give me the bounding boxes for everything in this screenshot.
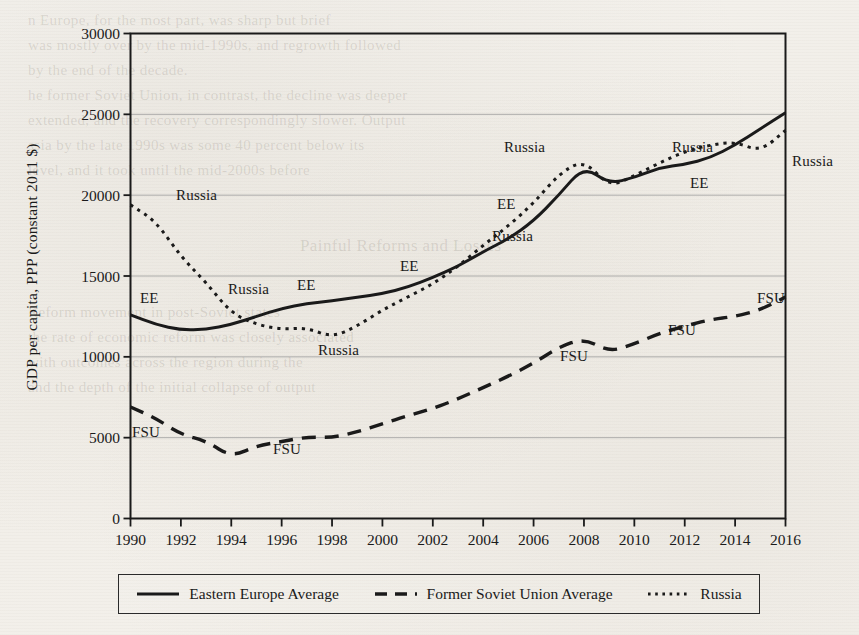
legend-label-eastern-europe: Eastern Europe Average [189,585,338,603]
chart-legend: Eastern Europe Average Former Soviet Uni… [118,574,760,614]
inline-label-russia-11: Russia [792,153,833,170]
inline-label-russia-2: Russia [228,281,269,298]
x-tick-2012: 2012 [658,531,712,549]
series-line-russia [131,131,786,335]
x-tick-2016: 2016 [759,531,813,549]
series-line-fsu [131,297,786,454]
inline-label-ee-10: EE [690,175,709,192]
legend-label-former-soviet-union: Former Soviet Union Average [427,585,613,603]
inline-label-russia-3: Russia [318,342,359,359]
x-tick-1996: 1996 [255,531,309,549]
x-tick-2008: 2008 [557,531,611,549]
inline-label-fsu-14: FSU [560,348,588,365]
inline-label-russia-7: Russia [492,228,533,245]
legend-item-former-soviet-union: Former Soviet Union Average [374,585,613,603]
inline-label-fsu-12: FSU [132,424,160,441]
inline-label-fsu-16: FSU [757,290,785,307]
y-tick-marks [124,34,131,519]
legend-swatch-solid [136,588,180,600]
inline-label-ee-5: EE [400,258,419,275]
x-tick-2014: 2014 [708,531,762,549]
legend-label-russia: Russia [700,585,741,603]
legend-swatch-dotted [647,588,691,600]
x-tick-2000: 2000 [355,531,409,549]
inline-label-fsu-15: FSU [668,322,696,339]
inline-label-ee-4: EE [297,277,316,294]
inline-label-ee-6: EE [497,196,516,213]
legend-item-eastern-europe: Eastern Europe Average [136,585,338,603]
x-tick-1998: 1998 [305,531,359,549]
legend-item-russia: Russia [647,585,741,603]
x-tick-1994: 1994 [204,531,258,549]
legend-swatch-dashed [374,588,418,600]
x-tick-2002: 2002 [406,531,460,549]
x-tick-2004: 2004 [456,531,510,549]
inline-label-russia-1: Russia [176,187,217,204]
inline-label-russia-9: Russia [672,139,713,156]
x-tick-marks [131,519,786,527]
inline-label-ee-0: EE [140,290,159,307]
inline-label-fsu-13: FSU [273,441,301,458]
inline-label-russia-8: Russia [504,139,545,156]
x-tick-1990: 1990 [104,531,158,549]
x-tick-2010: 2010 [607,531,661,549]
gdp-per-capita-chart: GDP per capita, PPP (constant 2011 $) 30… [0,0,859,635]
x-tick-1992: 1992 [154,531,208,549]
x-tick-2006: 2006 [507,531,561,549]
